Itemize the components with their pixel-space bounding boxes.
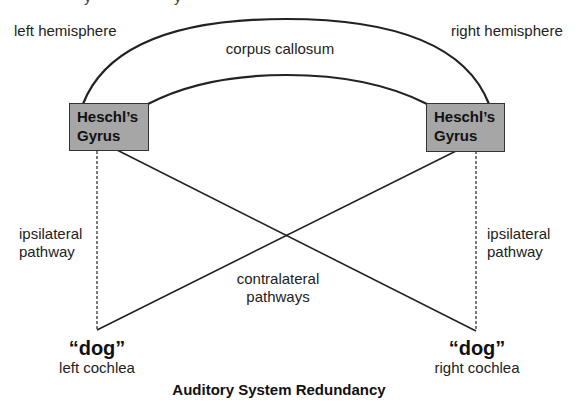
left-cochlea-label: left cochlea <box>59 359 135 377</box>
node-label-line2: Gyrus <box>434 126 504 145</box>
contralateral-label: contralateral pathways <box>237 270 320 306</box>
corpus-callosum-label: corpus callosum <box>226 40 334 58</box>
right-heschls-gyrus-node: Heschl’s Gyrus <box>426 103 505 152</box>
diagram-title: Auditory System Redundancy <box>172 381 385 399</box>
corpus-callosum-inner-arc <box>148 75 427 104</box>
left-heschls-gyrus-node: Heschl’s Gyrus <box>69 103 149 151</box>
corpus-callosum-outer-arc <box>83 19 489 104</box>
right-input-word: “dog” <box>449 337 506 359</box>
left-hemisphere-label: left hemisphere <box>14 22 117 40</box>
left-ipsilateral-label: ipsilateral pathway <box>19 225 82 261</box>
cropped-text-fragment: y <box>84 0 92 5</box>
node-label-line1: Heschl’s <box>434 107 504 126</box>
node-label-line2: Gyrus <box>77 126 148 145</box>
right-hemisphere-label: right hemisphere <box>451 22 563 40</box>
right-ipsilateral-label: ipsilateral pathway <box>487 225 550 261</box>
cropped-text-fragment: y <box>174 0 182 5</box>
right-cochlea-label: right cochlea <box>434 359 519 377</box>
node-label-line1: Heschl’s <box>77 107 148 126</box>
left-input-word: “dog” <box>69 337 126 359</box>
